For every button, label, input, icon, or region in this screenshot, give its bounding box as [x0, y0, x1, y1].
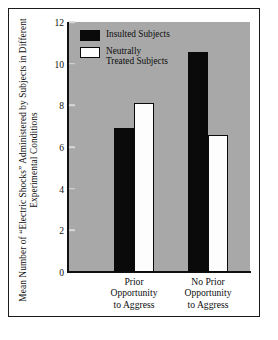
y-axis-tick-mark — [68, 188, 75, 190]
y-axis-tick-mark — [68, 230, 75, 232]
bar-insulted-group-2 — [188, 52, 208, 272]
y-axis-tick-mark — [68, 21, 75, 23]
chart-legend: Insulted Subjects Neutrally Treated Subj… — [80, 29, 200, 72]
y-axis-line — [67, 22, 69, 273]
bar-insulted-group-1 — [114, 128, 134, 272]
y-axis-tick-label: 6 — [42, 142, 64, 153]
y-axis-tick-label: 8 — [42, 100, 64, 111]
y-axis-tick-label: 12 — [42, 17, 64, 28]
x-axis-category-labels: Prior Opportunity to AggressNo Prior Opp… — [68, 276, 250, 320]
y-axis-tick-labels: 024681012 — [40, 22, 64, 272]
y-axis-tick-label: 0 — [42, 267, 64, 278]
y-axis-tick-label: 4 — [42, 183, 64, 194]
y-axis-tick-mark — [68, 146, 75, 148]
bar-neutrally-treated-group-2 — [208, 135, 228, 273]
legend-swatch-dark-icon — [80, 30, 100, 41]
plot-area: Insulted Subjects Neutrally Treated Subj… — [68, 22, 250, 272]
y-axis-tick-label: 2 — [42, 225, 64, 236]
legend-item-insulted: Insulted Subjects — [80, 29, 200, 41]
y-axis-tick-mark — [68, 105, 75, 107]
x-axis-label-group-2: No Prior Opportunity to Aggress — [163, 276, 253, 310]
bar-neutrally-treated-group-1 — [134, 103, 154, 272]
y-axis-tick-label: 10 — [42, 58, 64, 69]
legend-label-insulted: Insulted Subjects — [106, 29, 170, 39]
legend-label-neutrally-treated: Neutrally Treated Subjects — [106, 46, 168, 67]
figure-container: Mean Number of “Electric Shocks” Adminis… — [0, 0, 278, 340]
legend-item-neutrally-treated: Neutrally Treated Subjects — [80, 46, 200, 67]
legend-swatch-light-icon — [80, 47, 100, 58]
y-axis-tick-mark — [68, 63, 75, 65]
